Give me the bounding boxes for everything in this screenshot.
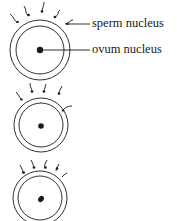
sperm-head — [33, 166, 36, 168]
sperm-head — [41, 10, 44, 13]
sperm-head — [44, 166, 47, 168]
sperm-head — [20, 98, 23, 100]
stage-1-sperm-group — [10, 2, 73, 24]
outer-membrane — [13, 171, 67, 221]
sperm-head-penetrating — [62, 109, 65, 111]
ovum-nucleus — [37, 47, 43, 53]
ovum-nucleus-label: ovum nucleus — [92, 43, 162, 56]
sperm-head — [66, 23, 69, 25]
sperm-head — [56, 167, 59, 169]
sperm-head — [43, 90, 46, 92]
sperm-head — [27, 14, 30, 16]
sperm-head — [54, 16, 57, 18]
sperm-head — [58, 92, 61, 94]
stage-2-sperm-group — [16, 83, 72, 110]
sperm-nucleus-label: sperm nucleus — [92, 17, 164, 30]
sperm-head — [31, 90, 34, 92]
sperm-head — [22, 171, 25, 173]
fertilization-diagram — [0, 0, 177, 221]
fusing-nucleus — [37, 195, 45, 204]
stage-3-ovum — [13, 171, 67, 221]
sperm-head — [16, 21, 19, 23]
ovum-nucleus — [38, 123, 44, 129]
